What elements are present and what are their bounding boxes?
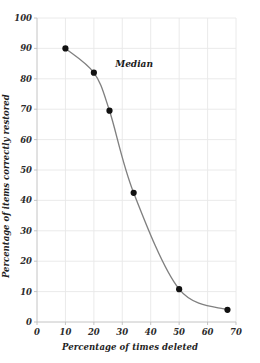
y-tick-label: 70 xyxy=(20,105,32,114)
y-axis-title: Percentage of items correctly restored xyxy=(2,94,11,278)
plot-area xyxy=(0,0,260,363)
y-tick-label: 90 xyxy=(20,44,32,53)
data-point xyxy=(131,190,137,196)
y-tick-label: 100 xyxy=(14,14,32,23)
x-axis-title: Percentage of times deleted xyxy=(62,343,198,352)
x-tick-label: 60 xyxy=(202,328,214,337)
x-tick-label: 40 xyxy=(145,328,157,337)
x-tick-label: 10 xyxy=(60,328,72,337)
x-tick-label: 30 xyxy=(116,328,128,337)
data-point-markers xyxy=(62,45,230,313)
data-point xyxy=(176,286,182,292)
y-tick-label: 40 xyxy=(20,196,32,205)
y-tick-label: 0 xyxy=(26,318,32,327)
y-tick-label: 60 xyxy=(20,135,32,144)
y-tick-label: 50 xyxy=(20,166,32,175)
data-point xyxy=(91,70,97,76)
y-tick-label: 10 xyxy=(20,287,32,296)
y-tick-label: 20 xyxy=(20,257,32,266)
y-tick-label: 30 xyxy=(20,227,32,236)
x-tick-label: 70 xyxy=(230,328,242,337)
chart-container: 0102030405060708090100 010203040506070 M… xyxy=(0,0,260,363)
median-annotation-label: Median xyxy=(115,60,153,69)
x-tick-label: 50 xyxy=(173,328,185,337)
y-tick-label: 80 xyxy=(20,75,32,84)
data-point xyxy=(106,108,112,114)
data-point xyxy=(62,45,68,51)
x-tick-label: 0 xyxy=(34,328,40,337)
data-point xyxy=(224,307,230,313)
x-tick-label: 20 xyxy=(88,328,100,337)
data-curve xyxy=(65,48,227,309)
